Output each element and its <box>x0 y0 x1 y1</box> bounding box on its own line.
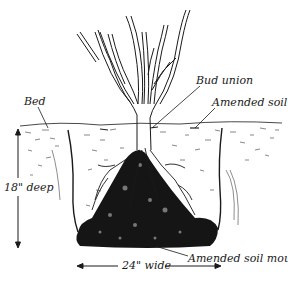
rose-bush <box>77 10 190 150</box>
label-mound: Amended soil mound <box>188 253 288 264</box>
label-amended-soil: Amended soil <box>212 97 287 108</box>
diagram-illustration <box>0 0 288 281</box>
label-depth: 18" deep <box>4 182 54 193</box>
bed-leader <box>38 107 48 128</box>
label-width: 24" wide <box>122 260 171 271</box>
amended-soil-mound <box>76 150 218 248</box>
label-bud-union: Bud union <box>196 75 253 86</box>
planting-diagram: Bud union Amended soil Bed 18" deep Amen… <box>0 0 288 281</box>
bud-union-leader <box>152 86 200 128</box>
amended-soil-leader <box>195 108 215 128</box>
label-bed: Bed <box>24 96 46 107</box>
